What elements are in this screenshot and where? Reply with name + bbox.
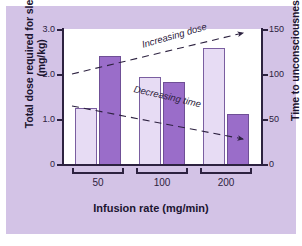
left-axis-line [62,28,64,166]
group-label-200: 200 [200,177,252,188]
x-axis-title: Infusion rate (mg/min) [6,202,296,214]
right-tick-50 [263,119,268,121]
left-axis-title: Total dose required for sleep (mg/kg) [23,0,47,133]
left-tick-2 [57,74,62,76]
bar-dark-200 [227,114,249,165]
bar-light-200 [203,48,225,165]
left-tick-1 [57,119,62,121]
group-label-50: 50 [72,177,124,188]
group-label-100: 100 [136,177,188,188]
group-bracket-50 [72,168,124,174]
right-axis-line [261,28,263,166]
bar-dark-50 [99,56,121,165]
right-axis-title: Time to unconsciousness (s) [289,0,301,125]
group-bracket-200 [200,168,252,174]
left-tick-0 [57,164,62,166]
bar-light-50 [75,108,97,165]
group-bracket-100 [136,168,188,174]
left-tick-3 [57,29,62,31]
right-tick-0 [263,164,268,166]
right-tick-150 [263,29,268,31]
right-tick-100 [263,74,268,76]
left-tick-label-0: 0 [29,160,55,169]
figure-container: 3.0 2.0 1.0 0 150 100 50 0 50 100 200 [0,0,302,246]
right-tick-label-0: 0 [269,160,299,169]
chart-panel: 3.0 2.0 1.0 0 150 100 50 0 50 100 200 [6,6,296,234]
bottom-axis-line [62,164,263,166]
